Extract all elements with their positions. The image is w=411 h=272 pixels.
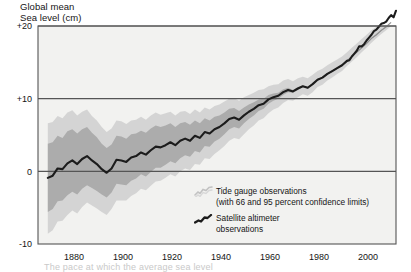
legend-item-satellite: Satellite altimeter observations — [216, 213, 369, 234]
figure-caption: The pace at which the average sea level — [44, 262, 213, 272]
legend-label-tide-gauge: Tide gauge observations — [216, 186, 369, 197]
tide-gauge-squiggle-icon — [194, 186, 214, 197]
satellite-squiggle-icon — [194, 214, 214, 225]
legend-sublabel-tide-gauge: (with 66 and 95 percent confidence limit… — [216, 197, 369, 208]
legend-label-satellite: Satellite altimeter — [216, 213, 369, 224]
chart-legend: Tide gauge observations (with 66 and 95 … — [216, 186, 369, 234]
legend-sublabel-satellite: observations — [216, 224, 369, 235]
legend-item-tide-gauge: Tide gauge observations (with 66 and 95 … — [216, 186, 369, 207]
